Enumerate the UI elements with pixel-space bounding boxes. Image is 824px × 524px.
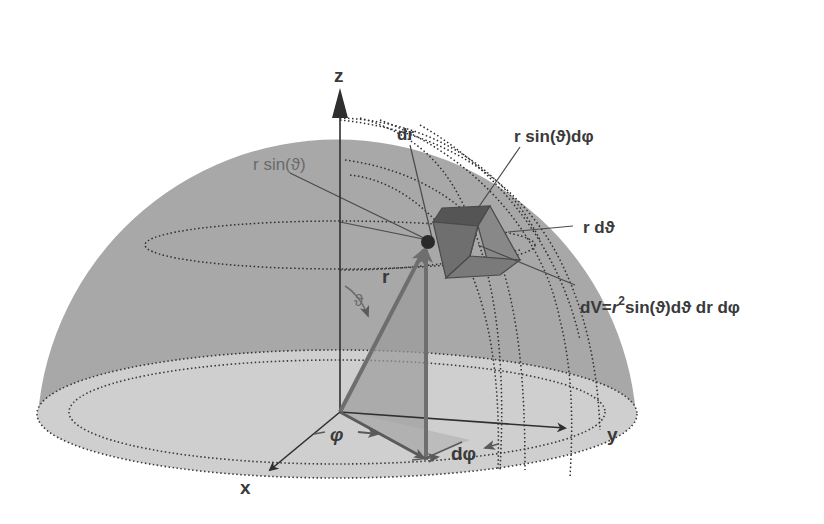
dV-rest: sin(ϑ)dϑ dr dφ: [625, 298, 740, 317]
theta-angle-label: ϑ: [354, 291, 364, 310]
dr-label: dr: [397, 125, 414, 144]
dV-prefix: dV=: [580, 298, 612, 317]
r-sin-theta-dphi-label: r sin(ϑ)dφ: [514, 127, 594, 146]
x-axis-label: x: [240, 477, 251, 498]
dphi-label: dφ: [451, 443, 476, 464]
spherical-coordinates-diagram: z x y dr r sin(ϑ) r sin(ϑ)dφ r dϑ dV=r2s…: [0, 0, 824, 524]
r-sin-theta-label: r sin(ϑ): [253, 155, 306, 174]
sphere-point-icon: [421, 235, 435, 249]
z-axis-label: z: [334, 65, 344, 86]
r-dtheta-label: r dϑ: [583, 218, 615, 237]
y-axis-label: y: [607, 424, 618, 445]
dV-formula: dV=r2sin(ϑ)dϑ dr dφ: [580, 294, 740, 317]
r-vector-label: r: [382, 266, 390, 287]
z-axis-arrow-icon: [332, 88, 348, 118]
phi-angle-label: φ: [330, 424, 343, 445]
